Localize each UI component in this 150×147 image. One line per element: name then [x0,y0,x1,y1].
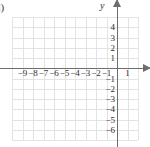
gridline-horizontal [12,58,138,59]
arrow-right-icon [143,64,150,72]
x-tick-label: −6 [49,69,59,78]
item-label: d) [0,1,4,13]
x-tick-label: −7 [39,69,49,78]
y-tick-label: −1 [105,74,115,83]
y-tick-label: −5 [105,115,115,124]
y-tick-label: −4 [105,105,115,114]
gridline-horizontal [12,79,138,80]
gridline-horizontal [12,27,138,28]
x-tick-label: 1 [125,69,130,78]
x-tick-label: −4 [70,69,80,78]
y-tick-label: 1 [111,54,116,63]
gridline-horizontal [12,109,138,110]
gridline-horizontal [12,120,138,121]
x-tick-label: −2 [91,69,101,78]
gridline-horizontal [12,130,138,131]
gridline-horizontal [12,48,138,49]
gridline-horizontal [12,17,138,18]
gridlines [12,17,138,140]
y-tick-label: −2 [105,84,115,93]
coordinate-plane: x y −9−8−7−6−5−4−3−2−11 4321−1−2−3−4−5−6 [12,17,138,140]
y-tick-label: 3 [111,33,116,42]
x-tick-label: −9 [18,69,28,78]
x-tick-label: −3 [81,69,91,78]
gridline-horizontal [12,38,138,39]
gridline-vertical [138,17,139,140]
y-axis-label: y [100,0,104,11]
y-tick-label: −3 [105,95,115,104]
gridline-horizontal [12,99,138,100]
figure-canvas: d) x y −9−8−7−6−5−4−3−2−11 4321−1−2−3−4−… [0,0,150,147]
x-tick-label: −5 [60,69,70,78]
gridline-horizontal [12,89,138,90]
y-tick-label: 2 [111,43,116,52]
x-tick-label: −8 [28,69,38,78]
gridline-horizontal [12,140,138,141]
y-tick-label: 4 [111,23,116,32]
y-tick-label: −6 [105,125,115,134]
arrow-up-icon [113,0,121,7]
y-axis-line [117,0,118,147]
